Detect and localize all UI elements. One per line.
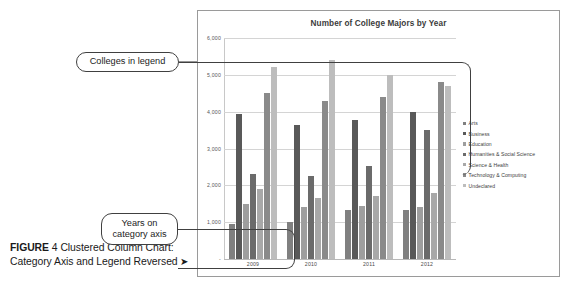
callout-years-on-category-axis: Years on category axis [101, 213, 178, 245]
bar [417, 207, 423, 259]
category-axis-label: 2011 [340, 261, 398, 267]
bar [431, 193, 437, 259]
legend-item-label: Education [469, 141, 492, 147]
bar [373, 196, 379, 259]
y-axis-tick-label: 2,000 [207, 182, 221, 188]
bar [366, 166, 372, 259]
legend-item-label: Business [469, 131, 490, 137]
legend-item: Arts [463, 118, 559, 128]
bar [308, 176, 314, 259]
figure-caption: FIGURE 4 Clustered Column Chart: Categor… [10, 241, 190, 268]
callout-years-line1: Years on [122, 218, 158, 228]
legend-item-label: Technology & Computing [469, 172, 527, 178]
years-callout-bracket [178, 229, 295, 269]
legend-item: Technology & Computing [463, 170, 559, 180]
legend-item: Education [463, 139, 559, 149]
bar [359, 206, 365, 259]
legend-item: Science & Health [463, 160, 559, 170]
caption-number: 4 [52, 242, 58, 253]
bar [315, 198, 321, 259]
callout-colleges-in-legend: Colleges in legend [76, 52, 179, 72]
category-axis-label: 2012 [398, 261, 456, 267]
bar [345, 210, 351, 259]
callout-years-line2: category axis [112, 229, 166, 239]
legend-item-label: Science & Health [469, 162, 509, 168]
legend-callout-bracket [179, 62, 471, 175]
callout-years-text: Years on category axis [112, 218, 166, 241]
callout-legend-text: Colleges in legend [90, 56, 166, 68]
chart-legend: ArtsBusinessEducationHumanities & Social… [463, 118, 559, 191]
y-axis-tick-label: 1,000 [207, 219, 221, 225]
legend-item: Undeclared [463, 180, 559, 190]
legend-swatch-icon [463, 184, 466, 187]
bar [301, 207, 307, 259]
legend-item-label: Humanities & Social Science [469, 151, 535, 157]
chart-title: Number of College Majors by Year [198, 19, 559, 28]
caption-label: FIGURE [10, 242, 49, 253]
y-axis-tick-label: 6,000 [207, 35, 221, 41]
legend-item: Business [463, 128, 559, 138]
legend-item: Humanities & Social Science [463, 149, 559, 159]
legend-item-label: Undeclared [469, 183, 496, 189]
bar [403, 210, 409, 259]
